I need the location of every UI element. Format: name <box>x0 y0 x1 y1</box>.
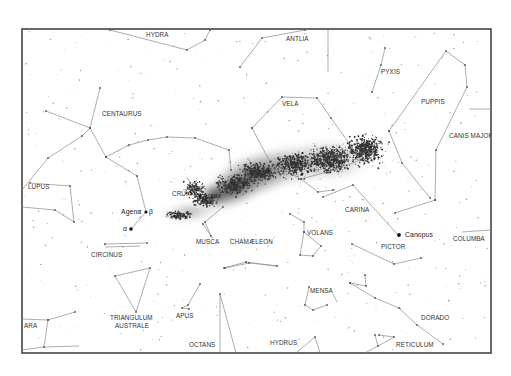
label-octans: OCTANS <box>189 341 215 348</box>
label-pyxis: PYXIS <box>381 68 400 75</box>
label-columba: COLUMBA <box>453 235 486 242</box>
label-apus: APUS <box>176 312 194 319</box>
star-label-beta: β <box>149 208 153 216</box>
bright-star <box>144 210 147 213</box>
label-crux: CRUX <box>172 190 191 197</box>
label-canis-major: CANIS MAJOR <box>449 132 493 139</box>
star-label-canopus: Canopus <box>405 231 433 239</box>
label-hydrus: HYDRUS <box>270 339 297 346</box>
label-vela: VELA <box>282 100 299 107</box>
label-centaurus: CENTAURUS <box>102 110 142 117</box>
star-chart: HYDRAANTLIAPYXISPUPPISCENTAURUSVELACANIS… <box>0 0 511 376</box>
bright-star <box>198 194 201 197</box>
label-ara: ARA <box>24 322 38 329</box>
star-label-alpha: α <box>123 225 127 232</box>
label-carina: CARINA <box>345 206 370 213</box>
label-mensa: MENSA <box>310 287 334 294</box>
bright-star <box>397 233 401 237</box>
label-chamaeleon: CHAMÆLEON <box>230 238 273 245</box>
label-dorado: DORADO <box>421 314 449 321</box>
label-lupus: LUPUS <box>28 183 50 190</box>
label-volans: VOLANS <box>307 229 333 236</box>
label-hydra: HYDRA <box>146 31 169 38</box>
label-reticulum: RETICULUM <box>396 341 434 348</box>
label-puppis: PUPPIS <box>421 98 445 105</box>
label-triangulum-australe-1: TRIANGULUM <box>110 314 153 321</box>
label-triangulum-australe-2: AUSTRALE <box>115 322 149 329</box>
label-circinus: CIRCINUS <box>91 251 122 258</box>
label-antlia: ANTLIA <box>286 35 309 42</box>
bright-star <box>129 227 133 231</box>
star-label-acrux: Acrux <box>203 192 221 199</box>
star-label-agena: Agena <box>121 208 141 216</box>
label-musca: MUSCA <box>196 238 220 245</box>
label-pictor: PICTOR <box>381 243 406 250</box>
